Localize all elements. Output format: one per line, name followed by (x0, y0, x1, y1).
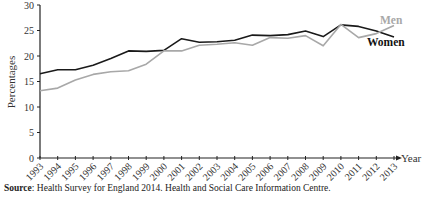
x-tick-label: 2013 (377, 161, 399, 183)
x-axis-label: Year (401, 152, 422, 164)
y-tick-label: 30 (24, 0, 34, 11)
x-tick-label: 1999 (130, 161, 152, 183)
x-tick-label: 1996 (77, 161, 99, 183)
x-tick-label: 2006 (254, 161, 276, 183)
x-tick-label: 2000 (147, 161, 169, 183)
x-tick-label: 2008 (289, 161, 311, 183)
x-tick-label: 1997 (94, 161, 116, 183)
x-axis: 1993199419951996199719981999200020012002… (23, 156, 402, 183)
x-tick-label: 1995 (59, 161, 81, 183)
x-tick-label: 2009 (307, 161, 329, 183)
series-line-men (40, 24, 394, 90)
y-axis: 051015202530 (24, 0, 40, 164)
source-label: Source (4, 183, 32, 193)
x-tick-label: 2003 (200, 161, 222, 183)
source-note: Source: Health Survey for England 2014. … (4, 183, 331, 193)
x-tick-label: 2007 (271, 161, 293, 183)
y-tick-label: 25 (24, 25, 34, 36)
x-tick-label: 2012 (360, 161, 382, 183)
legend-women: Women (367, 36, 405, 48)
x-tick-label: 2004 (218, 161, 240, 183)
x-tick-label: 2010 (324, 161, 346, 183)
y-tick-label: 0 (29, 153, 34, 164)
legend-men: Men (380, 14, 403, 26)
series-lines (40, 24, 394, 90)
series-line-women (40, 25, 394, 74)
x-tick-label: 1993 (23, 161, 45, 183)
x-tick-label: 1994 (41, 161, 63, 183)
y-tick-label: 20 (24, 51, 34, 62)
x-tick-label: 1998 (112, 161, 134, 183)
x-tick-label: 2001 (165, 161, 187, 183)
x-tick-label: 2005 (236, 161, 258, 183)
y-tick-label: 15 (24, 76, 34, 87)
x-tick-label: 2002 (183, 161, 205, 183)
y-tick-label: 5 (29, 127, 34, 138)
x-tick-label: 2011 (342, 161, 364, 183)
y-tick-label: 10 (24, 102, 34, 113)
y-axis-label: Percentages (5, 56, 17, 109)
line-chart: 051015202530 199319941995199619971998199… (0, 0, 424, 198)
source-text: : Health Survey for England 2014. Health… (32, 183, 331, 193)
